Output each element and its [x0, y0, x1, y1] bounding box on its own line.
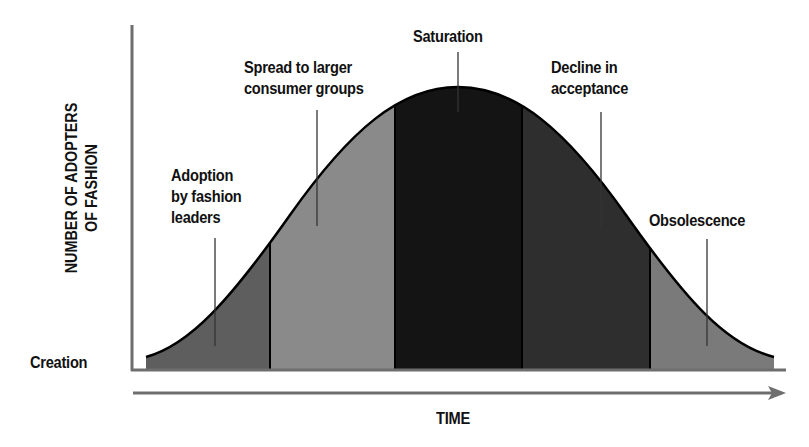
origin-label: Creation — [30, 352, 87, 373]
stage-label-adoption: Adoption by fashion leaders — [171, 165, 242, 228]
y-axis-label: NUMBER OF ADOPTERS OF FASHION — [62, 103, 102, 274]
stage-label-spread: Spread to larger consumer groups — [244, 57, 364, 99]
x-axis-label: TIME — [436, 408, 470, 429]
stage-label-saturation: Saturation — [413, 26, 483, 47]
stage-fill-spread — [270, 60, 395, 380]
stage-label-obsolescence: Obsolescence — [649, 210, 745, 231]
stage-label-decline: Decline in acceptance — [551, 57, 628, 99]
